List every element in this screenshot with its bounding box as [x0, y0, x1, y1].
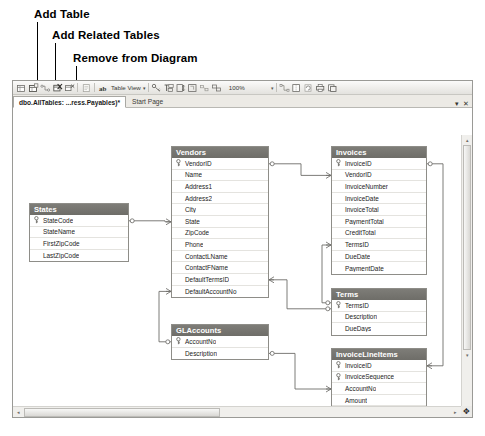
print-preview-icon[interactable] — [315, 82, 327, 94]
table-view-label[interactable]: Table View — [111, 84, 141, 91]
entity-table-states[interactable]: StatesStateCodeStateNameFirstZipCodeLast… — [29, 203, 129, 262]
resize-grip-icon[interactable]: ✥ — [461, 406, 472, 417]
zoom-level-value[interactable]: 100% — [229, 84, 245, 91]
tab-diagram[interactable]: dbo.AllTables: ...ress.Payables)* — [13, 96, 126, 108]
field-row[interactable]: Amount — [332, 395, 426, 407]
field-row[interactable]: StateName — [30, 227, 128, 239]
entity-table-vendors[interactable]: VendorsVendorIDNameAddress1Address2CityS… — [171, 146, 269, 298]
copy-to-clipboard-icon[interactable] — [327, 82, 339, 94]
remove-from-diagram-icon[interactable] — [63, 82, 75, 94]
field-row[interactable]: DueDays — [332, 323, 426, 335]
entity-header-invoicelineitems[interactable]: InvoiceLineItems — [332, 349, 426, 360]
field-row[interactable]: PaymentTotal — [332, 216, 426, 228]
field-row[interactable]: CreditTotal — [332, 228, 426, 240]
field-row[interactable]: Name — [172, 170, 268, 182]
field-row[interactable]: InvoiceNumber — [332, 181, 426, 193]
field-row[interactable]: StateCode — [30, 215, 128, 227]
field-name: Phone — [184, 241, 203, 248]
field-row[interactable]: LastZipCode — [30, 250, 128, 262]
field-row[interactable]: InvoiceID — [332, 360, 426, 372]
field-row[interactable]: InvoiceTotal — [332, 204, 426, 216]
arrange-selection-icon[interactable] — [187, 82, 199, 94]
relationships-icon[interactable]: ab — [97, 82, 109, 94]
add-table-icon[interactable] — [27, 82, 39, 94]
show-relationship-labels-icon[interactable] — [279, 82, 291, 94]
page-breaks-icon[interactable] — [291, 82, 303, 94]
add-related-tables-icon[interactable] — [39, 82, 51, 94]
field-row[interactable]: DefaultTermsID — [172, 274, 268, 286]
field-row[interactable]: VendorID — [332, 170, 426, 182]
tab-start-page[interactable]: Start Page — [126, 95, 169, 107]
new-text-annotation-icon[interactable] — [163, 82, 175, 94]
set-primary-key-icon[interactable] — [151, 82, 163, 94]
callout-annotations: Add TableAdd Related TablesRemove from D… — [0, 0, 485, 90]
horizontal-scrollbar[interactable]: ◂ ▸ — [13, 406, 461, 417]
field-row[interactable]: InvoiceDate — [332, 193, 426, 205]
rel-vendors-glaccounts[interactable] — [159, 291, 171, 341]
primary-key-icon — [332, 373, 344, 381]
rel-vendors-invoices[interactable] — [269, 164, 331, 176]
rel-invoices-lineitems[interactable] — [427, 164, 443, 366]
scroll-left-arrow-icon[interactable]: ◂ — [13, 407, 24, 418]
scroll-down-arrow-icon[interactable]: ▾ — [462, 350, 472, 360]
delete-table-icon[interactable] — [51, 82, 63, 94]
field-row[interactable]: Phone — [172, 239, 268, 251]
toolbar-separator-4 — [276, 83, 277, 92]
field-row[interactable]: AccountNo — [172, 336, 268, 348]
zoom-chevron-down-icon[interactable]: ▾ — [271, 85, 274, 91]
field-name: LastZipCode — [42, 252, 79, 259]
field-row[interactable]: PaymentDate — [332, 262, 426, 274]
vertical-scrollbar[interactable]: ▴ ▾ — [461, 135, 472, 406]
callout-leader-line — [55, 43, 56, 85]
arrange-tables-icon[interactable] — [199, 82, 211, 94]
svg-text:ab: ab — [99, 84, 107, 92]
entity-table-invoices[interactable]: InvoicesInvoiceIDVendorIDInvoiceNumberIn… — [331, 146, 427, 275]
field-name: FirstZipCode — [42, 240, 80, 247]
close-icon[interactable]: ✕ — [463, 100, 469, 107]
callout-label-add-table: Add Table — [34, 8, 90, 20]
field-row[interactable]: ContactFName — [172, 262, 268, 274]
field-row[interactable]: DueDate — [332, 251, 426, 263]
field-row[interactable]: TermsID — [332, 300, 426, 312]
scroll-up-arrow-icon[interactable]: ▴ — [462, 135, 472, 145]
field-row[interactable]: Description — [332, 312, 426, 324]
field-row[interactable]: Description — [172, 348, 268, 360]
entity-header-invoices[interactable]: Invoices — [332, 147, 426, 158]
relationship-many-marker — [427, 363, 432, 369]
diagram-canvas[interactable]: StatesStateCodeStateNameFirstZipCodeLast… — [13, 108, 472, 417]
field-row[interactable]: InvoiceID — [332, 158, 426, 170]
field-row[interactable]: InvoiceSequence — [332, 372, 426, 384]
field-row[interactable]: ZipCode — [172, 228, 268, 240]
entity-table-terms[interactable]: TermsTermsIDDescriptionDueDays — [331, 288, 427, 336]
primary-key-icon — [172, 337, 184, 345]
rel-states-vendors[interactable] — [129, 221, 171, 222]
field-row[interactable]: City — [172, 204, 268, 216]
rel-glaccounts-lineitems[interactable] — [269, 353, 331, 389]
horizontal-scroll-thumb[interactable] — [24, 408, 220, 417]
field-row[interactable]: VendorID — [172, 158, 268, 170]
entity-header-vendors[interactable]: Vendors — [172, 147, 268, 158]
zoom-icon[interactable] — [211, 82, 223, 94]
field-row[interactable]: State — [172, 216, 268, 228]
entity-table-glaccounts[interactable]: GLAccountsAccountNoDescription — [171, 324, 269, 360]
vertical-scroll-thumb[interactable] — [463, 145, 471, 350]
entity-header-states[interactable]: States — [30, 204, 128, 215]
entity-header-glaccounts[interactable]: GLAccounts — [172, 325, 268, 336]
autosize-selected-tables-icon[interactable] — [175, 82, 187, 94]
recalculate-page-breaks-icon[interactable] — [303, 82, 315, 94]
field-row[interactable]: ContactLName — [172, 251, 268, 263]
new-table-icon[interactable] — [15, 82, 27, 94]
rel-invoices-terms[interactable] — [322, 245, 331, 303]
field-row[interactable]: AccountNo — [332, 383, 426, 395]
diagram-surface[interactable]: StatesStateCodeStateNameFirstZipCodeLast… — [13, 108, 459, 406]
field-row[interactable]: Address2 — [172, 193, 268, 205]
scroll-right-arrow-icon[interactable]: ▸ — [450, 407, 461, 418]
field-row[interactable]: TermsID — [332, 239, 426, 251]
field-row[interactable]: DefaultAccountNo — [172, 286, 268, 298]
field-row[interactable]: Address1 — [172, 181, 268, 193]
chevron-down-icon[interactable]: ▾ — [143, 85, 146, 91]
entity-header-terms[interactable]: Terms — [332, 289, 426, 300]
field-row[interactable]: FirstZipCode — [30, 238, 128, 250]
tab-list-chevron-down-icon[interactable]: ▾ — [455, 100, 459, 107]
generate-change-script-icon[interactable] — [80, 82, 92, 94]
